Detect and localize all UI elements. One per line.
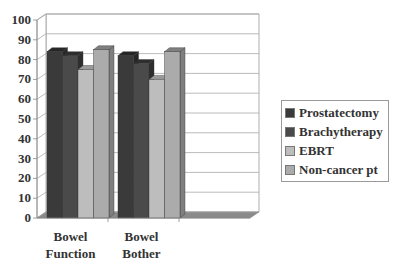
legend-label: Non-cancer pt — [299, 162, 378, 178]
y-tick-label: 40 — [18, 131, 31, 146]
x-axis: BowelFunctionBowelBother — [46, 218, 179, 261]
bar — [165, 48, 186, 218]
y-tick-label: 60 — [18, 91, 31, 106]
legend-swatch — [285, 146, 295, 156]
legend-swatch — [285, 165, 295, 175]
legend-label: Brachytherapy — [299, 124, 383, 140]
legend-swatch — [285, 127, 295, 137]
legend-swatch — [285, 108, 295, 118]
y-tick-label: 10 — [18, 190, 31, 205]
y-tick-label: 90 — [18, 32, 31, 47]
y-tick-label: 80 — [18, 52, 31, 67]
x-category-label: Bother — [122, 246, 161, 261]
y-tick-label: 100 — [12, 12, 32, 27]
y-tick-label: 0 — [25, 210, 32, 225]
y-tick-label: 20 — [18, 170, 31, 185]
legend-item-ebrt: EBRT — [285, 141, 385, 160]
legend-item-brachytherapy: Brachytherapy — [285, 122, 385, 141]
legend-label: Prostatectomy — [299, 105, 379, 121]
bar — [94, 46, 115, 218]
y-tick-label: 70 — [18, 71, 31, 86]
x-category-label: Bowel — [125, 229, 159, 244]
legend: Prostatectomy Brachytherapy EBRT Non-can… — [281, 100, 389, 182]
y-tick-label: 30 — [18, 151, 31, 166]
legend-item-prostatectomy: Prostatectomy — [285, 103, 385, 122]
y-tick-label: 50 — [18, 111, 31, 126]
legend-item-non-cancer: Non-cancer pt — [285, 160, 385, 179]
x-category-label: Function — [46, 246, 97, 261]
x-category-label: Bowel — [54, 229, 88, 244]
legend-label: EBRT — [299, 143, 334, 159]
